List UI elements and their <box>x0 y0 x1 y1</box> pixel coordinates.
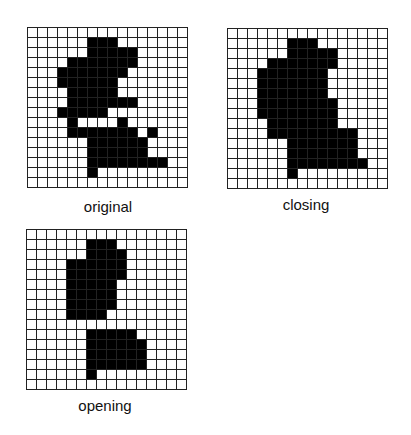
grid-cell <box>37 230 47 240</box>
grid-cell <box>137 270 147 280</box>
grid-cell <box>138 138 148 148</box>
grid-cell <box>127 350 137 360</box>
grid-cell <box>38 148 48 158</box>
grid-cell <box>118 118 128 128</box>
grid-cell <box>87 230 97 240</box>
grid-cell <box>97 370 107 380</box>
grid-cell <box>338 99 348 109</box>
grid-cell <box>57 280 67 290</box>
grid-cell <box>98 88 108 98</box>
grid-cell <box>48 68 58 78</box>
grid-cell <box>67 330 77 340</box>
grid-cell <box>67 310 77 320</box>
grid-cell <box>47 250 57 260</box>
grid-cell <box>98 168 108 178</box>
grid-cell <box>268 79 278 89</box>
grid-cell <box>127 380 137 390</box>
grid-cell <box>308 179 318 189</box>
grid-cell <box>77 330 87 340</box>
grid-cell <box>318 69 328 79</box>
grid-cell <box>288 169 298 179</box>
grid-cell <box>137 310 147 320</box>
grid-cell <box>148 148 158 158</box>
grid-cell <box>318 39 328 49</box>
grid-cell <box>118 78 128 88</box>
grid-cell <box>147 290 157 300</box>
grid-cell <box>158 108 168 118</box>
grid-cell <box>228 129 238 139</box>
grid-cell <box>137 230 147 240</box>
grid-cell <box>48 58 58 68</box>
grid-cell <box>117 270 127 280</box>
grid-cell <box>157 270 167 280</box>
grid-cell <box>278 129 288 139</box>
grid-cell <box>278 159 288 169</box>
grid-cell <box>28 38 38 48</box>
grid-cell <box>88 38 98 48</box>
grid-cell <box>298 79 308 89</box>
grid-cell <box>68 138 78 148</box>
grid-cell <box>308 49 318 59</box>
grid-cell <box>117 330 127 340</box>
grid-cell <box>228 29 238 39</box>
grid-cell <box>108 158 118 168</box>
grid-cell <box>137 280 147 290</box>
grid-cell <box>158 128 168 138</box>
grid-cell <box>238 69 248 79</box>
grid-cell <box>107 290 117 300</box>
grid-cell <box>128 108 138 118</box>
grid-cell <box>157 290 167 300</box>
grid-cell <box>28 88 38 98</box>
grid-cell <box>348 49 358 59</box>
grid-cell <box>178 58 188 68</box>
grid-cell <box>178 158 188 168</box>
grid-cell <box>158 138 168 148</box>
grid-cell <box>38 78 48 88</box>
grid-cell <box>158 38 168 48</box>
grid-cell <box>107 370 117 380</box>
grid-cell <box>108 148 118 158</box>
grid-cell <box>78 118 88 128</box>
grid-cell <box>248 129 258 139</box>
grid-cell <box>268 39 278 49</box>
grid-cell <box>147 270 157 280</box>
grid-cell <box>308 69 318 79</box>
grid-cell <box>97 310 107 320</box>
grid-cell <box>178 138 188 148</box>
grid-cell <box>248 89 258 99</box>
grid-cell <box>37 380 47 390</box>
grid-cell <box>28 178 38 188</box>
grid-cell <box>78 128 88 138</box>
grid-cell <box>117 370 127 380</box>
grid-cell <box>38 88 48 98</box>
grid-cell <box>268 69 278 79</box>
grid-cell <box>288 109 298 119</box>
grid-cell <box>48 108 58 118</box>
grid-cell <box>328 69 338 79</box>
grid-cell <box>107 320 117 330</box>
grid-cell <box>318 119 328 129</box>
grid-cell <box>77 370 87 380</box>
grid-cell <box>118 108 128 118</box>
grid-cell <box>248 49 258 59</box>
grid-cell <box>118 168 128 178</box>
grid-cell <box>278 59 288 69</box>
grid-cell <box>137 250 147 260</box>
grid-cell <box>98 118 108 128</box>
grid-cell <box>28 108 38 118</box>
grid-cell <box>77 310 87 320</box>
grid-cell <box>88 128 98 138</box>
grid-cell <box>228 79 238 89</box>
grid-cell <box>88 98 98 108</box>
grid-cell <box>27 280 37 290</box>
grid-cell <box>77 340 87 350</box>
grid-cell <box>128 38 138 48</box>
grid-cell <box>128 158 138 168</box>
grid-cell <box>177 350 187 360</box>
grid-cell <box>118 138 128 148</box>
grid-cell <box>97 320 107 330</box>
grid-cell <box>37 260 47 270</box>
grid-cell <box>68 88 78 98</box>
grid-cell <box>158 158 168 168</box>
grid-cell <box>137 380 147 390</box>
